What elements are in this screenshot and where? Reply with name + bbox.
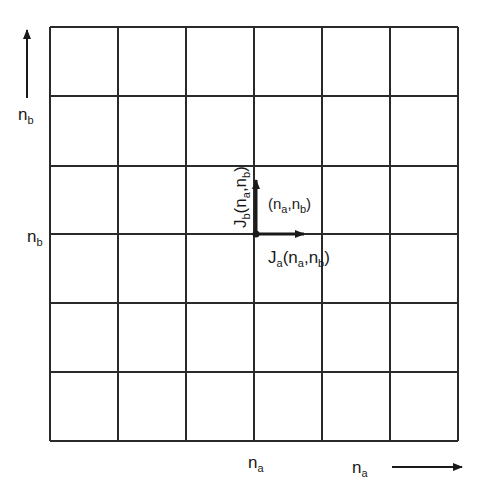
column-marker-label: na [248, 454, 264, 474]
jb-base: J [231, 220, 250, 229]
arg1-sub: a [240, 192, 252, 198]
arg2: n [309, 248, 318, 267]
arg2: n [231, 178, 250, 187]
ja-label: Ja(na,nb) [268, 249, 330, 269]
arg1: n [288, 248, 297, 267]
col-sub: a [257, 462, 263, 474]
vertical-axis-label: nb [18, 106, 34, 126]
arg2-sub: b [240, 172, 252, 178]
paren: ) [231, 166, 250, 172]
paren: ) [324, 248, 330, 267]
lattice-diagram [0, 0, 483, 502]
jb-sub: b [240, 213, 252, 219]
horizontal-axis-label: na [352, 459, 368, 479]
node-b: n [292, 195, 300, 212]
arg1: n [231, 198, 250, 207]
node-label: (na,nb) [268, 196, 311, 215]
paren: ( [231, 208, 250, 214]
jb-label: Jb(na,nb) [232, 166, 252, 228]
ja-base: J [268, 248, 277, 267]
lattice-node [253, 231, 260, 238]
axis-sub: b [27, 114, 33, 126]
axis-sub: a [361, 467, 367, 479]
row-marker-label: nb [27, 228, 43, 248]
paren: ) [306, 195, 311, 212]
comma: , [231, 187, 250, 192]
row-sub: b [36, 236, 42, 248]
